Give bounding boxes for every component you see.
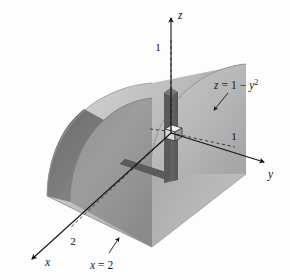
eq-y-exponent: 2: [254, 78, 258, 87]
eq-minus-sign: −: [240, 79, 247, 91]
plane-x-var: x: [89, 259, 96, 271]
plane-value: 2: [108, 259, 114, 271]
z-axis-tick-1: 1: [155, 41, 161, 53]
solid-region-diagram: z 1 y 1 x 2 z=1−y2 x=2: [0, 0, 290, 280]
svg-text:x=2: x=2: [89, 259, 114, 271]
x-axis-label: x: [44, 256, 51, 268]
plane-equation-label: x=2: [89, 259, 114, 271]
eq-z-var: z: [213, 79, 219, 91]
eq-one: 1: [231, 79, 237, 91]
figure-container: z 1 y 1 x 2 z=1−y2 x=2: [0, 0, 290, 280]
y-axis-label: y: [267, 168, 274, 181]
plane-equation-leader: [109, 238, 119, 253]
eq-equals-sign: =: [221, 79, 228, 91]
plane-equals-sign: =: [98, 259, 105, 271]
y-axis-tick-1: 1: [231, 130, 237, 142]
x-axis-tick-2: 2: [70, 235, 76, 247]
z-axis-label: z: [177, 9, 183, 21]
